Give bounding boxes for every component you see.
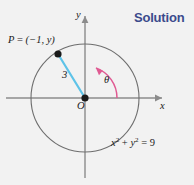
y-axis-label: y xyxy=(76,10,81,21)
x-axis-label: x xyxy=(160,101,165,112)
point-p-label: P = (−1, y) xyxy=(8,35,55,46)
angle-theta-label: θ xyxy=(104,75,109,86)
equation-equals: = xyxy=(139,137,150,148)
solution-heading: Solution xyxy=(134,11,184,24)
circle-equation-label: x2 + y2 = 9 xyxy=(111,138,155,149)
radius-length-label: 3 xyxy=(62,70,67,81)
point-p-marker xyxy=(54,50,61,57)
solution-figure-screenshot: Solution P = (−1, y) 3 θ O y x x2 + y2 =… xyxy=(0,0,194,185)
coordinate-plane-figure xyxy=(0,0,194,185)
equation-rhs: 9 xyxy=(150,137,155,148)
equation-plus: + xyxy=(119,137,130,148)
origin-label: O xyxy=(77,101,85,112)
point-p-coordinates: (−1, y) xyxy=(26,34,55,45)
point-p-equals: = xyxy=(14,34,25,45)
figure-background xyxy=(0,0,194,185)
